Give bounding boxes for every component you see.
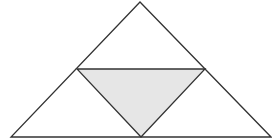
shaded-medial-triangle bbox=[77, 69, 205, 137]
triangle-diagram bbox=[0, 0, 272, 140]
